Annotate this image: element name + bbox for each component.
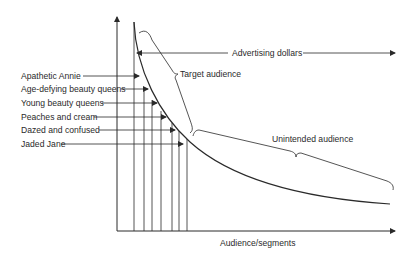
svg-text:Peaches and cream: Peaches and cream xyxy=(21,112,97,122)
svg-text:Apathetic Annie: Apathetic Annie xyxy=(21,71,81,81)
segment-label-jaded-jane: Jaded Jane xyxy=(21,139,183,149)
svg-text:Jaded Jane: Jaded Jane xyxy=(21,139,66,149)
svg-text:Young beauty queens: Young beauty queens xyxy=(21,98,104,108)
target-audience-label: Target audience xyxy=(180,69,241,79)
advertising-dollars-label: Advertising dollars xyxy=(232,48,302,58)
segment-label-young-beauty-queens: Young beauty queens xyxy=(21,98,157,108)
x-axis-label: Audience/segments xyxy=(220,238,295,248)
segment-label-age-defying-beauty-queens: Age-defying beauty queens xyxy=(21,84,148,94)
target-audience-brace xyxy=(139,31,192,133)
unintended-audience-label: Unintended audience xyxy=(272,134,353,144)
advertising-audience-diagram: Advertising dollars Target audience Unin… xyxy=(0,0,416,256)
svg-text:Age-defying beauty queens: Age-defying beauty queens xyxy=(21,84,126,94)
segment-label-apathetic-annie: Apathetic Annie xyxy=(21,71,139,81)
svg-text:Dazed and confused: Dazed and confused xyxy=(21,125,100,135)
